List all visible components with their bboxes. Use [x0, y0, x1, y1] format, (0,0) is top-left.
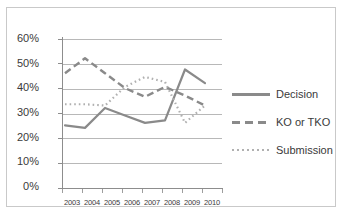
gridline-20	[62, 138, 222, 139]
gridline-60	[62, 39, 222, 40]
x-tick-mark-7	[202, 189, 203, 193]
x-tick-mark-3	[122, 189, 123, 193]
gridline-10	[62, 163, 222, 164]
x-tick-label-2008: 2008	[162, 197, 182, 209]
x-tick-label-2010: 2010	[202, 197, 222, 209]
chart-frame: 60% 50% 40% 30% 20% 10% 0%	[6, 7, 336, 207]
y-tick-label-20: 20%	[0, 132, 39, 143]
plot-area	[62, 39, 222, 188]
y-tick-label-40: 40%	[0, 82, 39, 93]
x-tick-label-2005: 2005	[102, 197, 122, 209]
x-tick-mark-2	[102, 189, 103, 193]
legend-item-submission[interactable]: Submission	[232, 142, 337, 158]
x-tick-label-2003: 2003	[62, 197, 82, 209]
x-tick-label-2009: 2009	[182, 197, 202, 209]
gridline-40	[62, 89, 222, 90]
y-tick-label-30: 30%	[0, 107, 39, 118]
x-tick-label-2007: 2007	[142, 197, 162, 209]
x-tick-mark-4	[142, 189, 143, 193]
legend-item-decision[interactable]: Decision	[232, 86, 337, 102]
x-tick-mark-0	[62, 189, 63, 193]
legend-label-decision: Decision	[276, 86, 318, 102]
y-tick-label-50: 50%	[0, 58, 39, 69]
chart-legend: Decision KO or TKO Submission	[232, 86, 337, 158]
gridline-30	[62, 114, 222, 115]
x-tick-mark-1	[82, 189, 83, 193]
legend-item-ko-or-tko[interactable]: KO or TKO	[232, 114, 337, 130]
y-tick-label-60: 60%	[0, 33, 39, 44]
x-tick-mark-5	[162, 189, 163, 193]
legend-label-submission: Submission	[276, 142, 333, 158]
dashed-line-swatch-icon	[232, 121, 270, 124]
x-axis-tick-labels: 2003 2004 2005 2006 2007 2008 2009 2010	[62, 197, 222, 209]
x-tick-label-2006: 2006	[122, 197, 142, 209]
dotted-line-swatch-icon	[232, 149, 270, 151]
solid-line-swatch-icon	[232, 93, 270, 96]
legend-label-ko-or-tko: KO or TKO	[276, 114, 330, 130]
y-tick-label-10: 10%	[0, 156, 39, 167]
y-tick-label-0: 0%	[0, 181, 39, 192]
gridline-50	[62, 64, 222, 65]
x-tick-mark-6	[182, 189, 183, 193]
y-axis-line	[62, 37, 63, 190]
x-tick-mark-8	[222, 189, 223, 193]
chart-screenshot: 60% 50% 40% 30% 20% 10% 0%	[0, 0, 345, 220]
x-tick-label-2004: 2004	[82, 197, 102, 209]
